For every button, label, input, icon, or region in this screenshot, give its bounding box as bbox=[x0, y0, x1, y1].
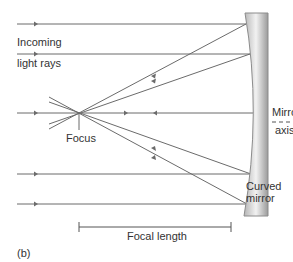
incoming-label-1: Incoming bbox=[17, 36, 62, 49]
panel-label: (b) bbox=[17, 247, 30, 260]
curved-mirror-label-2: mirror bbox=[246, 192, 275, 205]
focal-length-label: Focal length bbox=[127, 230, 187, 243]
mirror-axis-label-1: Mirror bbox=[272, 106, 293, 119]
focus-label: Focus bbox=[66, 132, 96, 145]
incoming-label-2: light rays bbox=[17, 57, 61, 70]
mirror-axis-label-2: axis bbox=[275, 124, 293, 137]
incoming-rays bbox=[17, 24, 254, 204]
arrow-icons bbox=[34, 22, 157, 207]
